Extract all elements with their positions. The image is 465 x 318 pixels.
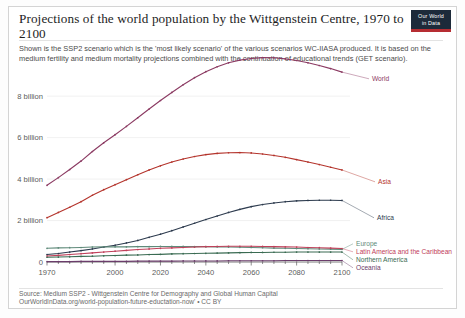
series-point: [46, 261, 48, 263]
footer-divider: [19, 288, 443, 289]
series-point: [284, 247, 286, 249]
series-point: [273, 202, 275, 204]
series-line[interactable]: [47, 58, 342, 186]
series-point: [250, 252, 252, 254]
series-point: [160, 233, 162, 235]
series-point: [273, 246, 275, 248]
series-point: [216, 260, 218, 262]
series-point: [69, 251, 71, 253]
series-point: [239, 260, 241, 262]
series-point: [80, 261, 82, 263]
source-line-1: Source: Medium SSP2 - Wittgenstein Centr…: [19, 290, 443, 298]
series-point: [205, 260, 207, 262]
series-point: [194, 222, 196, 224]
series-point: [80, 253, 82, 255]
series-point: [103, 142, 105, 144]
series-point: [114, 134, 116, 136]
series-point: [69, 169, 71, 171]
series-label-oceania[interactable]: Oceania: [356, 264, 381, 271]
series-point: [126, 254, 128, 256]
series-point: [137, 249, 139, 251]
series-point: [46, 184, 48, 186]
series-point: [216, 153, 218, 155]
series-point: [182, 158, 184, 160]
series-point: [262, 252, 264, 254]
series-label-leader: [342, 170, 375, 182]
series-point: [296, 251, 298, 253]
series-point: [239, 152, 241, 154]
series-point: [137, 254, 139, 256]
series-point: [330, 251, 332, 253]
series-point: [239, 59, 241, 61]
series-point: [205, 246, 207, 248]
series-point: [284, 58, 286, 60]
series-point: [284, 201, 286, 203]
series-point: [148, 260, 150, 262]
series-point: [57, 261, 59, 263]
series-label-asia[interactable]: Asia: [378, 178, 391, 185]
series-point: [92, 246, 94, 248]
series-point: [239, 208, 241, 210]
series-point: [171, 260, 173, 262]
series-point: [318, 260, 320, 262]
series-point: [318, 199, 320, 201]
series-point: [57, 253, 59, 255]
series-point: [69, 261, 71, 263]
series-point: [126, 250, 128, 252]
series-point: [114, 261, 116, 263]
series-point: [216, 252, 218, 254]
x-axis: [47, 262, 342, 266]
series-point: [194, 260, 196, 262]
series-point: [296, 60, 298, 62]
series-point: [126, 246, 128, 248]
series-point: [80, 256, 82, 258]
series-point: [114, 250, 116, 252]
series-point: [296, 200, 298, 202]
series-point: [296, 246, 298, 248]
series-point: [216, 66, 218, 68]
series-point: [126, 179, 128, 181]
series-label-africa[interactable]: Africa: [377, 214, 394, 221]
series-line[interactable]: [47, 153, 342, 218]
series-point: [330, 166, 332, 168]
series-point: [114, 246, 116, 248]
x-tick-label: 2080: [288, 268, 305, 277]
series-label-latin-america-and-the-caribbean[interactable]: Latin America and the Caribbean: [356, 248, 452, 255]
series-point: [239, 245, 241, 247]
series-point: [262, 57, 264, 59]
source-line-2[interactable]: OurWorldInData.org/world-population-futu…: [19, 298, 443, 306]
series-point: [273, 247, 275, 249]
series-point: [318, 247, 320, 249]
series-inline-labels[interactable]: WorldAsiaAfricaEuropeLatin America and t…: [342, 72, 452, 271]
series-point: [318, 251, 320, 253]
series-point: [46, 254, 48, 256]
series-point: [69, 256, 71, 258]
series-point: [148, 108, 150, 110]
series-point: [92, 255, 94, 257]
series-point: [171, 230, 173, 232]
series-point: [205, 252, 207, 254]
series-point: [318, 65, 320, 67]
series-point: [284, 156, 286, 158]
series-point: [307, 260, 309, 262]
series-point: [114, 244, 116, 246]
x-tick-label: 2060: [243, 268, 260, 277]
series-label-northern-america[interactable]: Northern America: [356, 256, 408, 263]
chart-card: Projections of the world population by t…: [8, 6, 457, 309]
series-label-europe[interactable]: Europe: [356, 240, 378, 248]
series-point: [262, 153, 264, 155]
series-point: [69, 247, 71, 249]
series-point: [46, 217, 48, 219]
series-point: [194, 246, 196, 248]
series-point: [126, 126, 128, 128]
series-point: [137, 174, 139, 176]
series-point: [262, 260, 264, 262]
series-point: [284, 251, 286, 253]
series-label-world[interactable]: World: [372, 75, 389, 82]
chart-plot-area: 02 billion4 billion6 billion8 billion 19…: [9, 7, 458, 310]
series-point: [69, 254, 71, 256]
gridlines: [47, 96, 350, 220]
series-point: [103, 251, 105, 253]
series-point: [171, 246, 173, 248]
series-point: [80, 201, 82, 203]
